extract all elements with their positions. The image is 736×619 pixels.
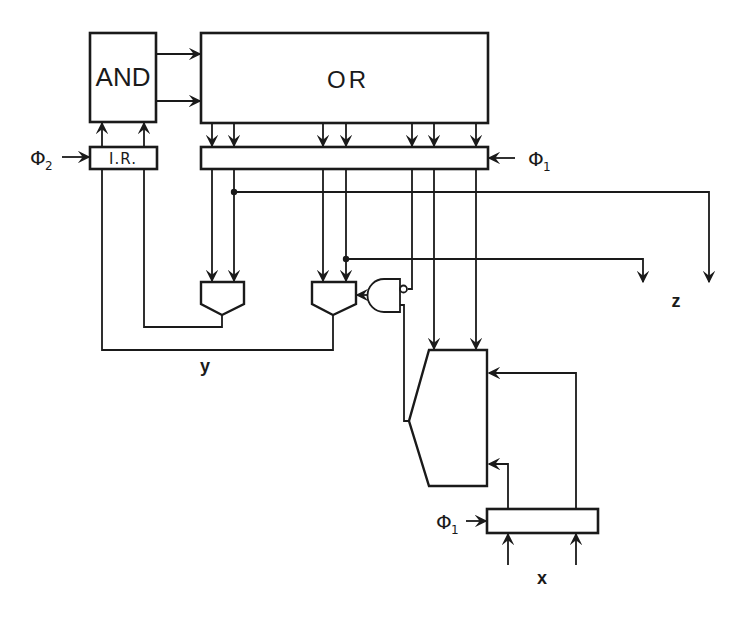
svg-text:1: 1 [451, 523, 459, 537]
nand-inversion-bubble [400, 286, 407, 293]
circuit-diagram: AND OR I.R. Φ 2 Φ 1 [0, 0, 736, 619]
big-multiplexer [409, 350, 487, 486]
and-plane: AND [90, 33, 156, 122]
ir-label: I.R. [109, 150, 137, 168]
phi1-bottom-clock-label: Φ 1 [436, 510, 459, 537]
or-output-arrows [212, 123, 476, 146]
svg-text:1: 1 [543, 160, 551, 174]
mux-1 [201, 282, 244, 315]
svg-text:Φ: Φ [528, 147, 544, 171]
input-register [487, 509, 598, 533]
nand-gate [368, 279, 408, 312]
z-signal-label: z [672, 291, 681, 311]
svg-text:Φ: Φ [30, 146, 46, 170]
input-reg-to-bigmux-wire-2 [489, 373, 576, 509]
or-output-register [201, 147, 488, 169]
instruction-register: I.R. [90, 147, 157, 169]
reg-to-nand-wire [408, 169, 412, 289]
svg-text:Φ: Φ [436, 510, 452, 534]
nand-input-from-bigmux-wire [400, 305, 409, 421]
z-output-wire-1 [234, 192, 709, 282]
x-signal-label: x [537, 568, 547, 588]
phi2-clock-label: Φ 2 [30, 146, 53, 173]
mux2-to-ir-wire [102, 169, 333, 350]
or-plane: OR [201, 33, 488, 123]
or-label: OR [327, 66, 369, 93]
y-signal-label: y [200, 356, 210, 376]
and-label: AND [96, 62, 151, 92]
input-reg-to-bigmux-wire-1 [489, 464, 508, 509]
phi1-top-clock-label: Φ 1 [528, 147, 551, 174]
mux-2 [312, 282, 356, 315]
svg-text:2: 2 [45, 159, 53, 173]
